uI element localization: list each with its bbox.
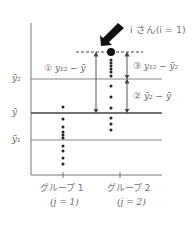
annotation-3-marker: ③ (133, 61, 141, 71)
y-label-ybar2: ȳ₂ (12, 74, 21, 83)
group1-sub: (j = 1) (50, 198, 79, 207)
annotation-2: ② ȳ₂ − ȳ (133, 92, 171, 101)
annotation-1: ① y₁₂ − ȳ (44, 64, 86, 73)
annotation-1-text: y₁₂ − ȳ (55, 63, 86, 73)
annotation-2-text: ȳ₂ − ȳ (144, 91, 171, 101)
group2-label: グループ 2 (107, 184, 151, 193)
group2-points (110, 59, 113, 132)
pointer-arrow-icon (100, 23, 124, 46)
highlighted-point (107, 48, 115, 56)
annotation-3-text: y₁₂ − ȳ₂ (144, 61, 178, 71)
annotation-2-marker: ② (133, 91, 141, 101)
group1-label: グループ 1 (40, 184, 84, 193)
callout-label: i さん(i = 1) (130, 25, 186, 35)
y-label-ybar: ȳ (12, 108, 17, 117)
annotation-1-marker: ① (44, 63, 52, 73)
y-label-ybar1: ȳ₁ (12, 135, 21, 144)
group2-sub: (j = 2) (117, 198, 146, 207)
group1-points (62, 106, 65, 166)
annotation-3: ③ y₁₂ − ȳ₂ (133, 62, 178, 71)
